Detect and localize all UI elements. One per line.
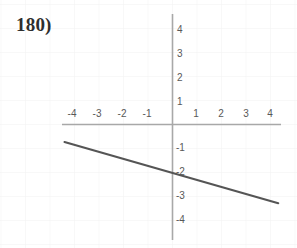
plotted-line <box>65 142 279 203</box>
x-tick-label-3: 3 <box>238 108 254 119</box>
x-tick-label--1: -1 <box>139 108 155 119</box>
y-tick-label-2: 2 <box>177 72 183 83</box>
x-tick-label--4: -4 <box>64 108 80 119</box>
y-tick-label--4: -4 <box>176 214 185 225</box>
y-tick-label--1: -1 <box>176 142 185 153</box>
x-tick-label--2: -2 <box>114 108 130 119</box>
y-tick-label-4: 4 <box>177 24 183 35</box>
x-tick-label--3: -3 <box>89 108 105 119</box>
x-tick-label-4: 4 <box>262 108 278 119</box>
x-tick-label-1: 1 <box>188 108 204 119</box>
x-tick-label-2: 2 <box>213 108 229 119</box>
y-tick-label-1: 1 <box>177 96 183 107</box>
y-tick-label--2: -2 <box>176 166 185 177</box>
y-tick-label-3: 3 <box>177 48 183 59</box>
y-tick-label--3: -3 <box>176 190 185 201</box>
worksheet-page: 180) -4 -3 -2 -1 1 2 3 4 4 3 2 1 -1 -2 -… <box>0 0 297 248</box>
coordinate-plot <box>0 0 297 248</box>
